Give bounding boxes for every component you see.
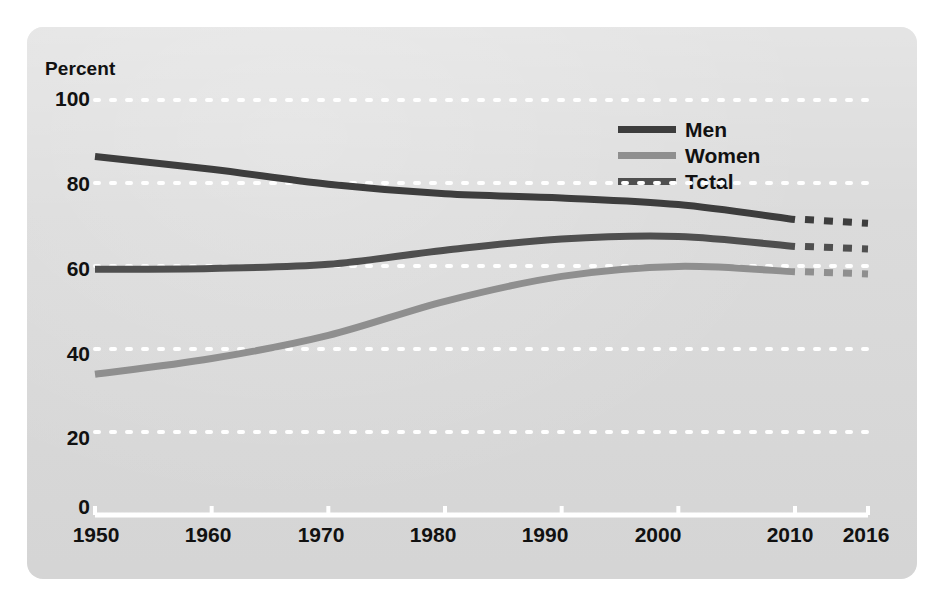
series-line-men [95, 156, 795, 219]
series-projection-men [805, 220, 868, 224]
series-projection-total [805, 246, 868, 248]
plot-area [0, 0, 946, 603]
series-line-women [95, 266, 795, 374]
series-projection-women [805, 272, 868, 274]
figure-root: Percent 100 80 60 40 20 0 1950 1960 1970… [0, 0, 946, 603]
